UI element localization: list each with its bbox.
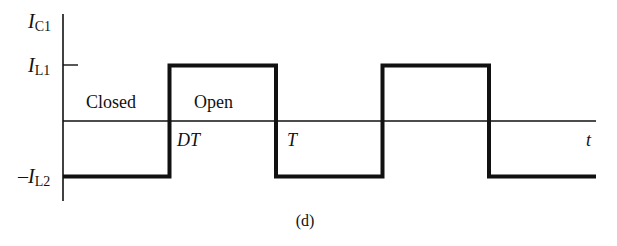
level-label-il2: –IL2 — [17, 165, 50, 189]
y-axis-title: IC1 — [27, 10, 51, 34]
capacitor-current-diagram: IC1 IL1 –IL2 Closed Open DT T t (d) — [0, 0, 617, 246]
tick-label-t: T — [287, 130, 299, 150]
figure-caption: (d) — [296, 212, 315, 230]
time-axis-label: t — [586, 130, 592, 150]
region-label-open: Open — [194, 92, 233, 112]
region-label-closed: Closed — [86, 92, 136, 112]
level-label-il1: IL1 — [27, 54, 50, 78]
tick-label-dt: DT — [176, 130, 202, 150]
